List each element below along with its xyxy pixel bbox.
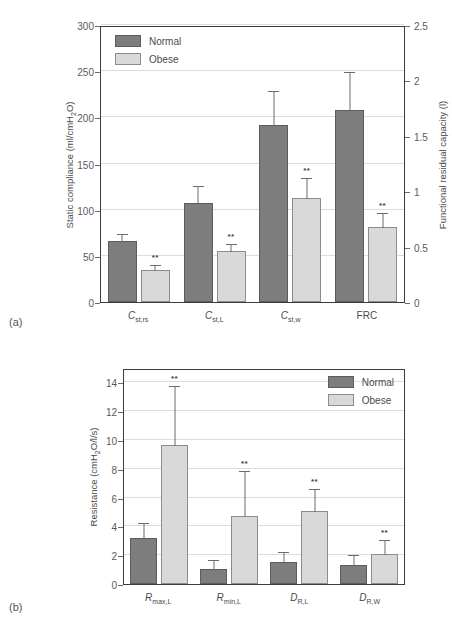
panel-a-legend: Normal Obese xyxy=(115,35,181,71)
legend-swatch-normal xyxy=(115,35,141,47)
bar-group: ** xyxy=(194,370,264,584)
x-axis-label: Rmax,L xyxy=(145,592,171,605)
error-bar xyxy=(155,265,156,271)
significance-marker: ** xyxy=(228,233,235,241)
secondary-y-tick-mark xyxy=(405,137,410,138)
error-bar-cap xyxy=(226,244,237,245)
error-bar-cap xyxy=(117,234,128,235)
bar-obese[interactable]: ** xyxy=(368,227,397,302)
legend-entry-obese: Obese xyxy=(115,53,181,65)
secondary-y-tick-mark xyxy=(405,81,410,82)
error-bar xyxy=(198,186,199,204)
secondary-y-tick-mark xyxy=(405,192,410,193)
panel-b-legend: Normal Obese xyxy=(328,376,394,412)
error-bar xyxy=(174,386,175,446)
y-tick-label: 8 xyxy=(85,464,117,475)
significance-marker: ** xyxy=(303,167,310,175)
bar-obese[interactable]: ** xyxy=(141,270,170,302)
error-bar xyxy=(143,523,144,539)
error-bar xyxy=(314,489,315,513)
panel-a-tag: (a) xyxy=(9,316,22,328)
significance-marker: ** xyxy=(241,460,248,468)
y-tick-label: 50 xyxy=(62,251,94,262)
error-bar-cap xyxy=(239,471,250,472)
secondary-y-tick-mark xyxy=(405,248,410,249)
error-bar-cap xyxy=(193,186,204,187)
bar-group: ** xyxy=(253,27,329,302)
y-tick-label: 4 xyxy=(85,522,117,533)
y-tick-label: 0 xyxy=(62,298,94,309)
error-bar xyxy=(384,540,385,556)
legend-entry-normal: Normal xyxy=(328,376,394,388)
bar-normal[interactable] xyxy=(184,203,213,302)
bar-normal[interactable] xyxy=(335,110,364,302)
error-bar-cap xyxy=(348,555,359,556)
bar-obese[interactable]: ** xyxy=(301,511,328,584)
y-tick-label: 100 xyxy=(62,205,94,216)
legend-label-obese: Obese xyxy=(362,395,391,406)
panel-b: (b) Resistance (cmH2O/l/s) 02468101214 R… xyxy=(0,330,452,636)
bar-normal[interactable] xyxy=(130,538,157,584)
error-bar xyxy=(353,555,354,567)
bar-normal[interactable] xyxy=(259,125,288,302)
secondary-y-tick-label: 1.5 xyxy=(414,131,428,142)
error-bar xyxy=(244,471,245,517)
significance-marker: ** xyxy=(311,478,318,486)
x-axis-label: Cst,rs xyxy=(128,310,148,323)
error-bar-cap xyxy=(208,560,219,561)
y-tick-label: 2 xyxy=(85,551,117,562)
y-tick-label: 300 xyxy=(62,21,94,32)
x-axis-label: Cst,w xyxy=(281,310,301,323)
x-axis-label: FRC xyxy=(357,310,378,321)
y-tick-label: 10 xyxy=(85,436,117,447)
panel-b-plot-area: ******** Normal Obese xyxy=(123,369,405,585)
error-bar-cap xyxy=(138,523,149,524)
panel-a-plot-area: ******** Normal Obese xyxy=(100,26,405,303)
bar-normal[interactable] xyxy=(108,241,137,302)
bar-obese[interactable]: ** xyxy=(217,251,246,302)
significance-marker: ** xyxy=(171,375,178,383)
error-bar xyxy=(382,213,383,229)
y-tick-label: 14 xyxy=(85,378,117,389)
legend-entry-normal: Normal xyxy=(115,35,181,47)
error-bar-cap xyxy=(268,91,279,92)
secondary-y-tick-label: 0 xyxy=(414,298,420,309)
error-bar-cap xyxy=(344,72,355,73)
y-tick-label: 0 xyxy=(85,580,117,591)
y-tick-label: 250 xyxy=(62,67,94,78)
error-bar-cap xyxy=(377,213,388,214)
error-bar xyxy=(273,91,274,126)
significance-marker: ** xyxy=(152,254,159,262)
y-tick-label: 6 xyxy=(85,493,117,504)
panel-b-tag: (b) xyxy=(9,601,22,613)
error-bar xyxy=(231,244,232,252)
legend-swatch-obese xyxy=(328,394,354,406)
secondary-y-tick-label: 1 xyxy=(414,187,420,198)
x-axis-label: Rmin,L xyxy=(217,592,241,605)
error-bar xyxy=(283,552,284,563)
bar-group: ** xyxy=(177,27,253,302)
bar-obese[interactable]: ** xyxy=(371,554,398,584)
error-bar xyxy=(213,560,214,570)
bar-obese[interactable]: ** xyxy=(292,198,321,302)
significance-marker: ** xyxy=(381,529,388,537)
secondary-y-tick-label: 2.5 xyxy=(414,21,428,32)
bar-obese[interactable]: ** xyxy=(161,445,188,584)
bar-normal[interactable] xyxy=(200,569,227,584)
legend-entry-obese: Obese xyxy=(328,394,394,406)
bar-group: ** xyxy=(124,370,194,584)
significance-marker: ** xyxy=(379,202,386,210)
legend-label-normal: Normal xyxy=(149,36,181,47)
secondary-y-tick-label: 2 xyxy=(414,76,420,87)
bar-normal[interactable] xyxy=(270,562,297,584)
error-bar-cap xyxy=(150,265,161,266)
y-tick-label: 200 xyxy=(62,113,94,124)
error-bar-cap xyxy=(169,386,180,387)
bar-normal[interactable] xyxy=(340,565,367,584)
y-tick-mark xyxy=(95,303,100,304)
y-tick-label: 12 xyxy=(85,407,117,418)
bar-group: ** xyxy=(328,27,404,302)
y-tick-label: 150 xyxy=(62,159,94,170)
x-axis-label: DR,W xyxy=(359,592,380,605)
bar-obese[interactable]: ** xyxy=(231,516,258,584)
